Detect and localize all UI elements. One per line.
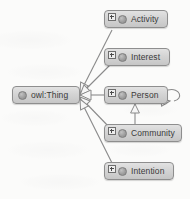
generalization-arrowhead-icon <box>131 104 140 113</box>
class-node-label: Activity <box>131 15 159 24</box>
class-circle-icon <box>118 53 127 62</box>
plus-box-icon[interactable] <box>108 89 116 97</box>
class-node-label: Person <box>131 91 159 100</box>
class-node-label: owl:Thing <box>31 91 68 100</box>
class-circle-icon <box>118 15 127 24</box>
plus-box-icon[interactable] <box>108 165 116 173</box>
class-circle-icon <box>18 91 27 100</box>
class-node-label: Interest <box>131 53 160 62</box>
class-circle-icon <box>118 91 127 100</box>
plus-box-icon[interactable] <box>108 127 116 135</box>
class-node-label: Intention <box>131 167 165 176</box>
plus-box-icon[interactable] <box>108 51 116 59</box>
class-node-community[interactable]: Community <box>104 124 182 142</box>
self-loop-arc <box>168 90 180 101</box>
diagram-canvas: owl:Thing Activity Interest Person Commu… <box>0 0 190 199</box>
class-node-person[interactable]: Person <box>104 86 168 104</box>
edge-community-person <box>131 104 140 124</box>
class-node-activity[interactable]: Activity <box>104 10 168 28</box>
class-circle-icon <box>118 129 127 138</box>
plus-box-icon[interactable] <box>108 13 116 21</box>
class-node-label: Community <box>131 129 175 138</box>
class-circle-icon <box>118 167 127 176</box>
class-node-intention[interactable]: Intention <box>104 162 174 180</box>
class-node-owl-thing[interactable]: owl:Thing <box>12 86 80 104</box>
class-node-interest[interactable]: Interest <box>104 48 170 66</box>
